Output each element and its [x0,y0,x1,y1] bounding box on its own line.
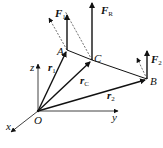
label-F2: F2 [150,53,162,67]
label-z-axis: z [29,61,35,73]
label-C: C [94,52,102,64]
label-B: B [150,75,157,87]
label-rC: rC [80,74,89,88]
label-y-axis: y [111,111,117,123]
rigid-body-lines [67,50,147,79]
point-O-dot [37,110,39,112]
label-x-axis: x [5,120,11,132]
segment-AC [67,50,92,60]
label-F1: F1 [54,7,66,21]
position-vectors [38,52,145,111]
label-r1: r1 [48,61,56,75]
FR-dashed-line [65,11,92,60]
label-O: O [34,114,42,126]
force-diagram: F1 FR F2 A C B O r1 rC r2 z y x [0,0,163,148]
label-FR: FR [100,4,113,18]
label-A: A [56,45,64,57]
label-r2: r2 [107,89,115,103]
coordinate-axes [11,64,118,132]
